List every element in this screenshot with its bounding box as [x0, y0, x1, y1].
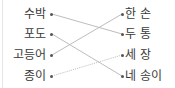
- connection-line-watermelon-two-tong: [52, 14, 122, 34]
- left-item-mackerel: 고등어: [13, 48, 46, 62]
- right-item-ne-song-i: 네 송이: [125, 69, 162, 83]
- right-dot-1[interactable]: [121, 13, 124, 16]
- connection-line-mackerel-han-son: [52, 14, 122, 55]
- left-dot-1[interactable]: [50, 13, 53, 16]
- left-dot-2[interactable]: [50, 33, 53, 36]
- right-item-han-son: 한 손: [125, 7, 151, 21]
- right-dot-4[interactable]: [121, 75, 124, 78]
- connection-line-grape-four-song-i: [52, 34, 122, 76]
- matching-exercise: 수박 포도 고등어 종이 한 손 두 통 세 장 네 송이: [0, 0, 175, 88]
- right-item-se-jang: 세 장: [125, 48, 151, 62]
- left-dot-4[interactable]: [50, 75, 53, 78]
- right-item-du-tong: 두 통: [125, 27, 151, 41]
- connection-line-paper-se-jang: [52, 55, 122, 76]
- right-dot-2[interactable]: [121, 33, 124, 36]
- right-dot-3[interactable]: [121, 54, 124, 57]
- left-item-watermelon: 수박: [24, 7, 46, 21]
- left-item-grape: 포도: [24, 27, 46, 41]
- left-dot-3[interactable]: [50, 54, 53, 57]
- left-item-paper: 종이: [24, 69, 46, 83]
